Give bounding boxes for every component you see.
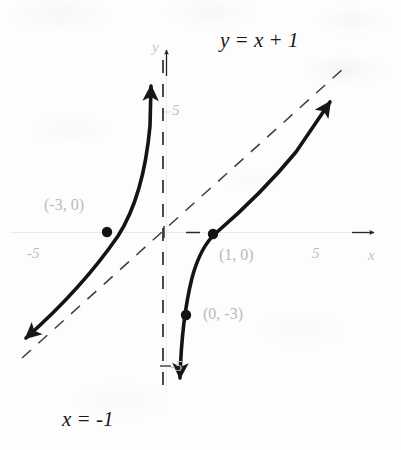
point-marker-left-intercept (102, 227, 112, 237)
curve-right-branch (180, 102, 330, 378)
y-axis-tick-label-positive: 5 (172, 103, 180, 118)
x-axis-tick-label-negative: -5 (27, 246, 40, 261)
marked-points-group (102, 227, 218, 320)
point-marker-right-intercept (208, 229, 218, 239)
point-label-left-intercept: (-3, 0) (44, 197, 84, 213)
x-axis-tick-label-positive: 5 (312, 246, 320, 261)
vertical-asymptote-label: x = -1 (62, 409, 114, 430)
coordinate-plane (0, 0, 401, 450)
axes-group (10, 50, 374, 392)
point-marker-y-intercept (181, 310, 191, 320)
y-axis-tick-label-negative: -5 (170, 359, 183, 374)
x-axis-label: x (368, 248, 375, 263)
graph-figure: y = x + 1 x = -1 (-3, 0) (1, 0) (0, -3) … (0, 0, 401, 450)
slant-asymptote-label: y = x + 1 (220, 30, 298, 51)
y-axis-label: y (152, 40, 159, 55)
point-label-right-intercept: (1, 0) (219, 247, 254, 263)
point-label-y-intercept: (0, -3) (203, 306, 243, 322)
